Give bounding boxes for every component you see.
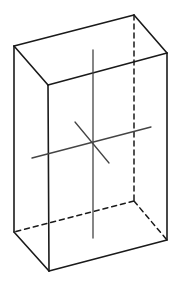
prism-diagram [0,0,182,290]
depth-axis [75,122,109,163]
edge-solid [14,232,49,271]
hidden-edges [14,15,167,240]
edge-solid [14,46,48,85]
edge-hidden [134,201,167,240]
edge-solid [48,85,49,271]
edge-hidden [14,201,134,232]
edge-solid [49,240,167,271]
edge-solid [48,53,167,85]
axes [32,50,151,238]
edge-solid [14,15,134,46]
edge-solid [134,15,167,53]
